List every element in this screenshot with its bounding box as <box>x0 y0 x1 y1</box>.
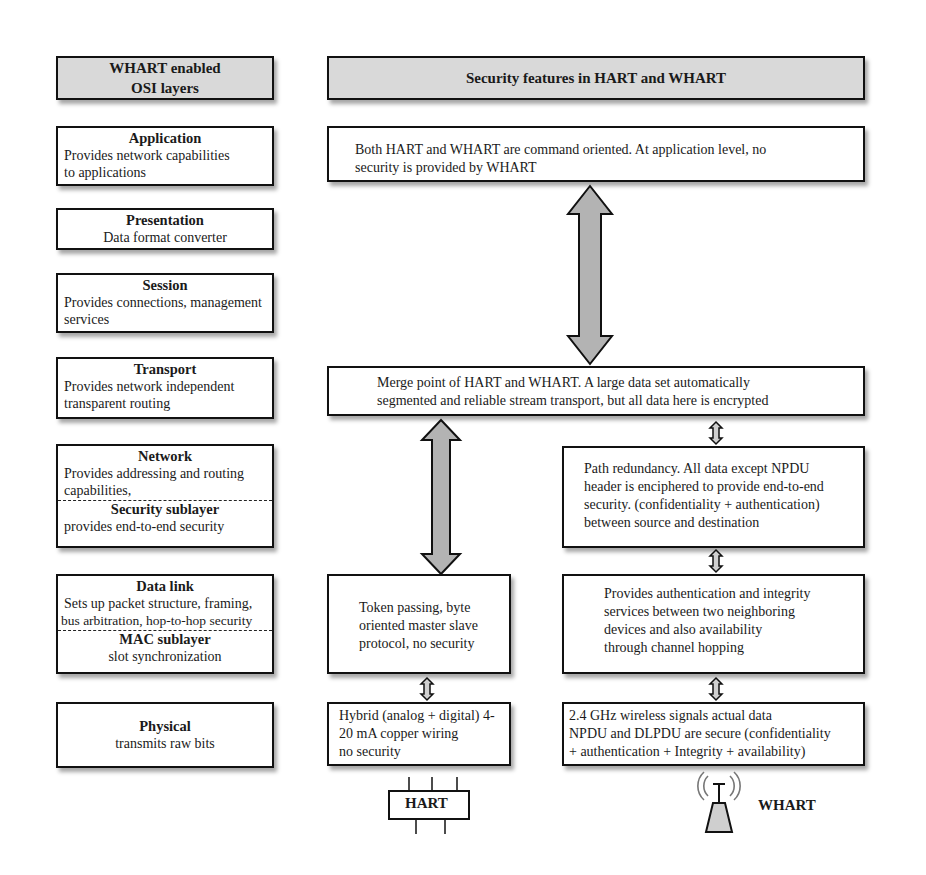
feature-text: segmented and reliable stream transport,… <box>377 392 863 410</box>
layer-desc: services <box>64 311 266 328</box>
sublayer-title: MAC sublayer <box>64 631 266 648</box>
osi-header-line2: OSI layers <box>109 78 220 98</box>
double-arrow-icon <box>422 420 460 574</box>
layer-title: Session <box>64 277 266 294</box>
whart-antenna-icon <box>698 772 740 832</box>
whart-label: WHART <box>758 797 816 814</box>
osi-layers-header: WHART enabled OSI layers <box>56 56 274 100</box>
layer-desc: Provides network capabilities <box>64 147 266 164</box>
layer-desc: Provides addressing and routing <box>64 465 266 482</box>
feature-physical-whart: 2.4 GHz wireless signals actual data NPD… <box>562 702 865 766</box>
security-features-header: Security features in HART and WHART <box>327 56 865 100</box>
feature-text: between source and destination <box>584 514 863 532</box>
layer-physical: Physical transmits raw bits <box>56 702 274 768</box>
feature-text: NPDU and DLPDU are secure (confidentiali… <box>569 725 863 743</box>
feature-text: through channel hopping <box>604 639 863 657</box>
feature-text: Path redundancy. All data except NPDU <box>584 460 863 478</box>
sublayer-desc: provides end-to-end security <box>64 518 266 535</box>
layer-transport: Transport Provides network independent t… <box>56 357 274 419</box>
layer-data-link: Data link Sets up packet structure, fram… <box>56 574 274 674</box>
feature-network-whart: Path redundancy. All data except NPDU he… <box>562 446 865 548</box>
feature-text: Merge point of HART and WHART. A large d… <box>377 374 863 392</box>
double-arrow-icon <box>568 186 612 364</box>
feature-physical-hart: Hybrid (analog + digital) 4- 20 mA coppe… <box>327 702 511 766</box>
osi-header-line1: WHART enabled <box>109 58 220 78</box>
small-double-arrow-icon <box>710 678 722 700</box>
layer-desc: transmits raw bits <box>64 735 266 752</box>
layer-title: Data link <box>64 578 266 595</box>
feature-text: oriented master slave <box>359 617 509 635</box>
layer-title: Transport <box>64 361 266 378</box>
feature-datalink-hart: Token passing, byte oriented master slav… <box>327 574 511 674</box>
layer-desc: Data format converter <box>64 229 266 246</box>
layer-title: Physical <box>64 718 266 735</box>
layer-application: Application Provides network capabilitie… <box>56 126 274 186</box>
feature-text: + authentication + Integrity + availabil… <box>569 743 863 761</box>
layer-desc: transparent routing <box>64 395 266 412</box>
security-header-text: Security features in HART and WHART <box>466 68 726 88</box>
feature-text: Hybrid (analog + digital) 4- <box>339 707 509 725</box>
feature-text: services between two neighboring <box>604 603 863 621</box>
feature-text: 2.4 GHz wireless signals actual data <box>569 707 863 725</box>
layer-session: Session Provides connections, management… <box>56 273 274 333</box>
layer-title: Presentation <box>64 212 266 229</box>
layer-desc: Sets up packet structure, framing, <box>64 595 266 612</box>
feature-text: protocol, no security <box>359 635 509 653</box>
small-double-arrow-icon <box>421 678 433 700</box>
feature-text: Both HART and WHART are command oriented… <box>355 141 863 159</box>
feature-text: security. (confidentiality + authenticat… <box>584 496 863 514</box>
layer-desc: capabilities, <box>64 482 266 499</box>
layer-desc: Provides connections, management <box>64 294 266 311</box>
feature-text: Token passing, byte <box>359 599 509 617</box>
feature-text: no security <box>339 743 509 761</box>
layer-desc: to applications <box>64 164 266 181</box>
layer-presentation: Presentation Data format converter <box>56 208 274 250</box>
feature-text: 20 mA copper wiring <box>339 725 509 743</box>
feature-text: Provides authentication and integrity <box>604 585 863 603</box>
layer-network: Network Provides addressing and routing … <box>56 444 274 548</box>
feature-text: security is provided by WHART <box>355 159 863 177</box>
feature-transport: Merge point of HART and WHART. A large d… <box>327 366 865 416</box>
layer-desc: Provides network independent <box>64 378 266 395</box>
feature-application: Both HART and WHART are command oriented… <box>327 126 865 182</box>
layer-desc: bus arbitration, hop-to-hop security <box>61 612 266 629</box>
sublayer-title: Security sublayer <box>64 501 266 518</box>
feature-text: devices and also availability <box>604 621 863 639</box>
layer-title: Network <box>64 448 266 465</box>
feature-datalink-whart: Provides authentication and integrity se… <box>562 574 865 674</box>
sublayer-desc: slot synchronization <box>64 648 266 665</box>
layer-title: Application <box>64 130 266 147</box>
small-double-arrow-icon <box>710 422 722 444</box>
small-double-arrow-icon <box>710 550 722 572</box>
feature-text: header is enciphered to provide end-to-e… <box>584 478 863 496</box>
hart-label: HART <box>405 795 448 812</box>
